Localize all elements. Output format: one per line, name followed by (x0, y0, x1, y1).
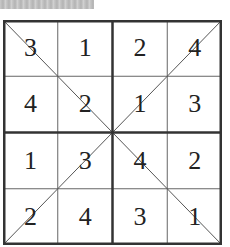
cell-r1c1: 3 (3, 20, 58, 76)
cell-r2c4: 3 (167, 76, 222, 132)
sudoku-board: 3 1 2 4 4 2 1 3 1 3 4 2 2 4 3 1 (3, 20, 222, 245)
cell-r2c1: 4 (3, 76, 58, 132)
cell-r3c4: 2 (167, 133, 222, 189)
cell-r3c3: 4 (113, 133, 168, 189)
cell-r1c2: 1 (58, 20, 113, 76)
cell-r1c4: 4 (167, 20, 222, 76)
cell-r3c1: 1 (3, 133, 58, 189)
cell-r4c4: 1 (167, 189, 222, 245)
cell-r2c3: 1 (113, 76, 168, 132)
cell-r3c2: 3 (58, 133, 113, 189)
cell-r2c2: 2 (58, 76, 113, 132)
blurred-caption (0, 0, 94, 9)
cell-r1c3: 2 (113, 20, 168, 76)
cell-r4c2: 4 (58, 189, 113, 245)
cell-r4c3: 3 (113, 189, 168, 245)
cell-r4c1: 2 (3, 189, 58, 245)
